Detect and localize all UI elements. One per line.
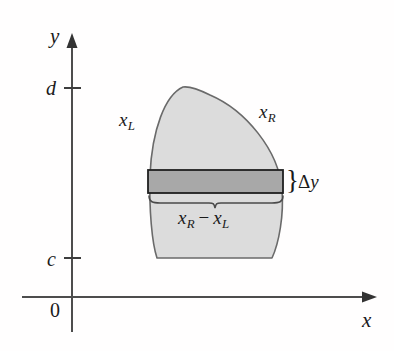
strip-width-label: xR−xL <box>178 208 229 231</box>
figure-canvas: y x 0 d c xL xR } Δy xR−xL <box>0 0 394 351</box>
approximating-rectangle <box>148 170 283 193</box>
left-curve-label-sub: L <box>128 118 135 133</box>
delta-variable: y <box>310 171 318 192</box>
delta-symbol: Δ <box>298 171 310 192</box>
x-axis <box>22 292 377 303</box>
width-minus-sign: − <box>199 207 210 228</box>
width-left-sub: R <box>187 216 195 231</box>
width-right-base: x <box>213 207 221 228</box>
left-curve-label-base: x <box>119 109 127 130</box>
x-axis-label: x <box>362 310 371 331</box>
width-left-base: x <box>178 207 186 228</box>
left-curve-label: xL <box>119 110 135 133</box>
right-curve-label-base: x <box>259 101 267 122</box>
right-curve-label: xR <box>259 102 276 125</box>
y-axis-label: y <box>50 26 59 47</box>
right-curve-label-sub: R <box>268 110 276 125</box>
width-right-sub: L <box>222 216 229 231</box>
origin-label: 0 <box>50 300 60 320</box>
delta-y-label: Δy <box>298 172 319 191</box>
tick-label-d: d <box>46 78 56 98</box>
tick-label-c: c <box>47 249 56 269</box>
y-axis <box>67 33 78 332</box>
